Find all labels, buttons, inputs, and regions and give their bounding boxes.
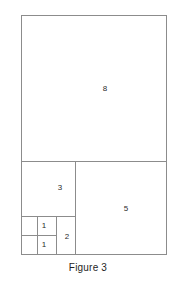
figure-container: 8 5 3 2 1 1 Figure 3 [0,0,176,287]
figure-caption: Figure 3 [0,262,176,273]
fibonacci-tiling-diagram [0,0,176,262]
outer-rectangle [22,16,167,255]
